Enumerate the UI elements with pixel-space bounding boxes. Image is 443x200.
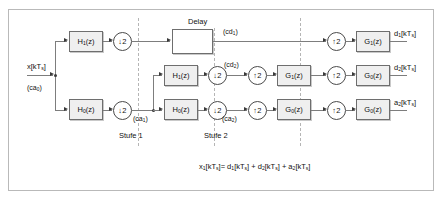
upsampler-out-a2: ↑2 [327, 101, 346, 120]
s2-h0-in-arrow [159, 107, 163, 111]
block-g0-output-d2-label: G0(z) [364, 71, 381, 80]
upsampler-ca2: ↑2 [248, 101, 267, 120]
delay-out-line [213, 41, 326, 42]
block-g1-output: G1(z) [356, 31, 390, 52]
ca1-split-line [153, 75, 154, 110]
s1-high-to-delay-line [132, 41, 170, 42]
downsampler-stage1-low-label: ↓2 [118, 106, 127, 115]
stage1-label: Stufe 1 [119, 131, 143, 140]
delay-label: Delay [188, 17, 207, 26]
d1-out-line [390, 41, 407, 42]
upsampler-cd2: ↑2 [248, 66, 267, 85]
s1-h0-in-arrow [64, 107, 68, 111]
block-h0-stage2-label: H0(z) [172, 105, 189, 114]
upsampler-ca2-label: ↑2 [253, 106, 262, 115]
block-h1-stage2: H1(z) [164, 65, 198, 86]
s1-low-out-line [132, 110, 153, 111]
input-signal-label: x[kTs] [27, 62, 46, 71]
signal-ca1-label: (ca1) [133, 115, 148, 123]
block-g0-output-a2: G0(z) [356, 99, 390, 120]
upsampler-cd2-label: ↑2 [253, 71, 262, 80]
downsampler-stage1-high: ↓2 [113, 32, 132, 51]
output-a2-label: a2[kTs] [394, 98, 416, 107]
reconstruction-equation: x1[kTs]= d1[kTs] + d2[kTs] + a2[kTs] [199, 162, 310, 171]
s2-h1-in-arrow [159, 72, 163, 76]
stage2-divider [214, 28, 215, 146]
downsampler-stage2-high-label: ↓2 [213, 71, 222, 80]
input-coeff-label: (ca0) [27, 84, 42, 92]
block-h0-stage1-label: H0(z) [77, 105, 94, 114]
upsampler-out-d1-label: ↑2 [332, 37, 341, 46]
s1-high-to-delay-arrow [167, 38, 171, 42]
diagram-frame: x[kTs] (ca0) H1(z) ↓2 Delay (cd1) H0(z) [8, 9, 434, 191]
downsampler-stage2-low-label: ↓2 [213, 106, 222, 115]
block-h1-stage1-label: H1(z) [77, 37, 94, 46]
downsampler-stage1-high-label: ↓2 [118, 37, 127, 46]
upsampler-out-d2: ↑2 [327, 66, 346, 85]
block-g0-output-d2: G0(z) [356, 65, 390, 86]
upsampler-out-d1: ↑2 [327, 32, 346, 51]
signal-cd2-label: (cd2) [224, 61, 239, 69]
output-d2-label: d2[kTs] [394, 63, 416, 72]
block-g1-stage2: G1(z) [277, 65, 311, 86]
upsampler-out-d2-label: ↑2 [332, 71, 341, 80]
stage1-divider [138, 18, 139, 146]
downsampler-stage1-low: ↓2 [113, 101, 132, 120]
block-delay [172, 29, 213, 54]
signal-cd1-label: (cd1) [223, 28, 238, 36]
a2-out-line [390, 110, 407, 111]
block-g0-output-a2-label: G0(z) [364, 105, 381, 114]
block-g1-output-label: G1(z) [364, 37, 381, 46]
block-g0-stage2-label: G0(z) [285, 105, 302, 114]
s1-h1-in-arrow [64, 38, 68, 42]
output-d1-label: d1[kTs] [394, 29, 416, 38]
diagram-canvas: x[kTs] (ca0) H1(z) ↓2 Delay (cd1) H0(z) [0, 0, 443, 200]
d2-out-line [390, 75, 407, 76]
block-g1-stage2-label: G1(z) [285, 71, 302, 80]
upsampler-out-a2-label: ↑2 [332, 106, 341, 115]
block-h1-stage2-label: H1(z) [172, 71, 189, 80]
block-h0-stage2: H0(z) [164, 99, 198, 120]
block-h1-stage1: H1(z) [69, 31, 103, 52]
block-g0-stage2: G0(z) [277, 99, 311, 120]
signal-ca2-label: (ca2) [222, 115, 237, 123]
input-split-node [54, 74, 57, 77]
stage2-label: Stufe 2 [204, 131, 228, 140]
block-h0-stage1: H0(z) [69, 99, 103, 120]
